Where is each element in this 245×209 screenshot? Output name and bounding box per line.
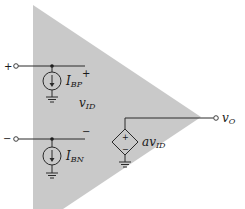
minus-polarity-mark: − xyxy=(82,126,90,137)
plus-polarity-mark: + xyxy=(82,68,90,79)
plus-input-terminal[interactable] xyxy=(14,64,19,69)
amplifier-triangle xyxy=(33,5,201,209)
minus-input-terminal[interactable] xyxy=(14,137,19,142)
op-amp-diagram: + + IBP vID − − xyxy=(0,0,245,209)
source-plus-mark: + xyxy=(122,133,129,142)
vo-label: vO xyxy=(222,111,236,126)
output-terminal[interactable] xyxy=(214,116,219,121)
plus-input-label: + xyxy=(4,61,12,72)
minus-input-label: − xyxy=(3,133,11,144)
source-minus-mark: − xyxy=(122,145,129,154)
